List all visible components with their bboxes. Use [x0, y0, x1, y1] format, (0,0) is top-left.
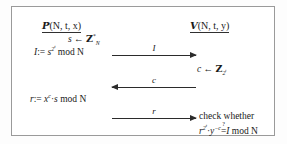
verifier-symbol: V [190, 20, 198, 31]
figure-frame: P(N, t, x) V(N, t, y) s ← Z*N I:= s2t mo… [11, 6, 275, 136]
response-factor: s [54, 94, 58, 104]
verifier-header: V(N, t, y) [190, 20, 229, 33]
check-relation-question-mark: ? [221, 121, 226, 127]
prover-sample-line: s ← Z*N [68, 34, 100, 45]
check-relation: ?= [221, 127, 226, 137]
prover-response-line: r:= xc·s mod N [30, 95, 86, 105]
challenge-set-subscript: 2t [222, 70, 226, 76]
message-arrow-response: r [112, 118, 196, 119]
prover-symbol: P [42, 20, 50, 31]
challenge-arrow-icon: ← [204, 64, 214, 74]
prover-header: P(N, t, x) [42, 20, 81, 33]
sample-arrow-icon: ← [74, 34, 84, 44]
message-arrow-challenge: c [112, 87, 196, 88]
protocol-figure: P(N, t, x) V(N, t, y) s ← Z*N I:= s2t mo… [0, 0, 287, 144]
assign-operator: := [34, 94, 42, 104]
check-rhs: I [226, 126, 229, 136]
check-y-exponent: −c [214, 125, 221, 131]
prover-args: (N, t, x) [50, 20, 82, 31]
arrow-line [112, 118, 196, 119]
message-arrow-commitment: I [112, 55, 196, 56]
message-label-challenge: c [112, 75, 196, 85]
sample-set: Z [86, 33, 93, 44]
sample-set-subscript: N [96, 40, 100, 46]
response-modulus: mod N [60, 94, 86, 104]
commitment-exponent: 2t [51, 46, 55, 52]
arrow-line [112, 55, 196, 56]
verifier-check-equation: r2t·y−c?=I mod N [199, 126, 258, 137]
prover-commitment-line: I:= s2t mod N [34, 47, 84, 58]
check-relation-equals: = [221, 126, 226, 136]
challenge-variable: c [197, 64, 201, 74]
check-modulus: mod N [232, 126, 258, 136]
sample-variable: s [68, 34, 72, 44]
message-label-commitment: I [112, 43, 196, 53]
sample-set-superscript: * [93, 33, 96, 39]
challenge-set-sub-exponent: t [225, 69, 226, 73]
arrow-line [112, 87, 196, 88]
commitment-exponent-exponent: t [54, 44, 55, 49]
commitment-modulus: mod N [58, 47, 84, 57]
verifier-challenge-line: c ← Z2t [197, 64, 226, 75]
message-label-response: r [112, 106, 196, 116]
assign-operator: := [37, 47, 45, 57]
verifier-check-label: check whether [199, 112, 254, 122]
verifier-args: (N, t, y) [198, 20, 230, 31]
